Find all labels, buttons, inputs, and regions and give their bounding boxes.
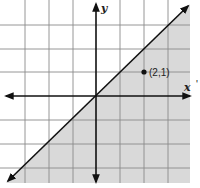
tick-mark: ' xyxy=(196,79,198,90)
point-label: (2,1) xyxy=(149,67,170,78)
coordinate-plane: (2,1) y x ' xyxy=(0,0,200,188)
point-2-1 xyxy=(141,69,146,74)
y-axis-label: y xyxy=(100,2,109,15)
x-axis-label: x xyxy=(183,81,191,94)
